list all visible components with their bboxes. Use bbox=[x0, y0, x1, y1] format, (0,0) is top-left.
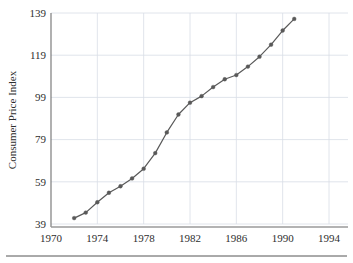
chart-figure: 39597999119139 1970197419781982198619901… bbox=[0, 0, 353, 263]
data-point bbox=[119, 184, 123, 188]
data-point bbox=[246, 65, 250, 69]
cpi-line-chart: 39597999119139 1970197419781982198619901… bbox=[0, 0, 353, 263]
data-point bbox=[84, 211, 88, 215]
y-tick-label: 99 bbox=[35, 91, 47, 103]
data-point bbox=[200, 94, 204, 98]
data-point bbox=[142, 167, 146, 171]
data-point bbox=[177, 113, 181, 117]
data-point bbox=[72, 216, 76, 220]
data-point bbox=[95, 200, 99, 204]
data-point bbox=[292, 17, 296, 21]
data-point bbox=[130, 177, 134, 181]
y-tick-label: 139 bbox=[30, 7, 47, 19]
data-point bbox=[223, 77, 227, 81]
data-point bbox=[281, 29, 285, 33]
y-tick-label: 119 bbox=[30, 49, 47, 61]
y-tick-label: 79 bbox=[35, 133, 47, 145]
data-point bbox=[107, 191, 111, 195]
y-tick-label: 39 bbox=[35, 218, 47, 230]
y-axis-title: Consumer Price Index bbox=[6, 70, 18, 169]
x-tick-label: 1974 bbox=[86, 232, 109, 244]
chart-background bbox=[0, 0, 353, 263]
x-tick-label: 1990 bbox=[272, 232, 295, 244]
data-point bbox=[269, 43, 273, 47]
x-tick-label: 1994 bbox=[318, 232, 341, 244]
x-tick-label: 1970 bbox=[40, 232, 63, 244]
data-point bbox=[153, 151, 157, 155]
data-point bbox=[234, 73, 238, 77]
data-point bbox=[188, 101, 192, 105]
data-point bbox=[211, 85, 215, 89]
data-point bbox=[165, 131, 169, 135]
y-tick-label: 59 bbox=[35, 176, 47, 188]
data-point bbox=[258, 55, 262, 59]
x-tick-label: 1982 bbox=[179, 232, 201, 244]
x-tick-label: 1978 bbox=[133, 232, 156, 244]
x-tick-label: 1986 bbox=[225, 232, 248, 244]
